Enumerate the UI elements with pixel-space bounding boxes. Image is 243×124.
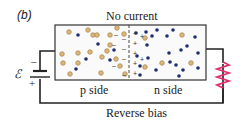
svg-text:–: –: [112, 41, 116, 48]
emf-symbol: ℰ: [14, 67, 21, 82]
svg-text:+: +: [133, 40, 137, 47]
svg-text:–: –: [122, 45, 126, 52]
svg-text:+: +: [133, 70, 137, 77]
svg-text:+: +: [133, 60, 137, 67]
svg-text:–: –: [122, 35, 126, 42]
diagram-title: No current: [106, 9, 158, 24]
battery-minus-label: –: [31, 55, 37, 67]
svg-text:–: –: [122, 71, 126, 78]
figure-label: (b): [17, 8, 32, 22]
p-side-label: p side: [80, 83, 108, 98]
bias-caption: Reverse bias: [106, 106, 167, 121]
n-side-label: n side: [154, 83, 182, 98]
svg-text:–: –: [112, 62, 116, 69]
svg-text:–: –: [114, 31, 118, 38]
svg-text:+: +: [140, 33, 144, 40]
svg-text:–: –: [122, 55, 126, 62]
svg-text:+: +: [140, 56, 144, 63]
svg-text:+: +: [133, 30, 137, 37]
svg-text:+: +: [133, 50, 137, 57]
battery-plus-label: +: [29, 77, 35, 89]
